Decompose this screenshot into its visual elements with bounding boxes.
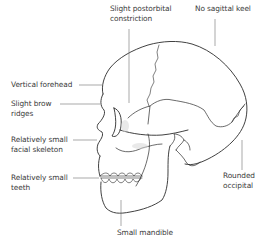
label-postorbital-constriction: Slight postorbital constriction xyxy=(110,4,171,23)
label-line: Small mandible xyxy=(117,228,173,238)
skull-illustration xyxy=(0,0,268,240)
label-vertical-forehead: Vertical forehead xyxy=(11,80,72,90)
label-line: Rounded xyxy=(223,171,255,181)
label-line: teeth xyxy=(11,183,68,193)
lower-teeth xyxy=(101,178,142,183)
upper-teeth xyxy=(100,173,142,176)
label-small-facial-skeleton: Relatively small facial skeleton xyxy=(11,135,68,154)
maxilla xyxy=(99,156,101,176)
mastoid xyxy=(176,140,200,166)
temporal-line xyxy=(128,106,150,124)
label-line: Relatively small xyxy=(11,135,68,145)
squamosal-suture xyxy=(150,99,245,126)
label-slight-brow-ridges: Slight brow ridges xyxy=(11,99,51,118)
cranium-outline xyxy=(102,41,247,164)
mandible-outline xyxy=(101,146,170,213)
label-small-teeth: Relatively small teeth xyxy=(11,173,68,192)
orbit xyxy=(112,108,121,137)
label-line: occipital xyxy=(223,181,255,191)
label-line: Slight brow xyxy=(11,99,51,109)
leader-lines xyxy=(60,19,242,226)
label-line: ridges xyxy=(11,109,51,119)
mandible-condyle xyxy=(170,134,184,150)
label-line: Slight postorbital xyxy=(110,4,171,14)
coronal-suture xyxy=(147,45,159,106)
label-line: Vertical forehead xyxy=(11,80,72,90)
label-line: No sagittal keel xyxy=(195,4,251,14)
skull-diagram: Slight postorbital constriction No sagit… xyxy=(0,0,268,240)
label-rounded-occipital: Rounded occipital xyxy=(223,171,255,190)
label-small-mandible: Small mandible xyxy=(117,228,173,238)
face-profile xyxy=(97,94,104,156)
label-line: constriction xyxy=(110,14,171,24)
label-line: Relatively small xyxy=(11,173,68,183)
label-no-sagittal-keel: No sagittal keel xyxy=(195,4,251,14)
label-line: facial skeleton xyxy=(11,145,68,155)
